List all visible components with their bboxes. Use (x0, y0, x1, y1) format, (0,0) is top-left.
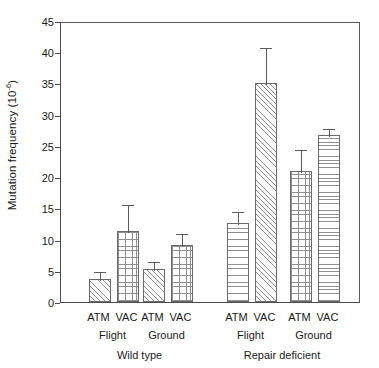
error-bar-cap (94, 272, 106, 273)
error-bar-cap (176, 234, 188, 235)
y-axis-tick-mark (55, 116, 60, 117)
bar-vac-group4 (318, 135, 340, 302)
x-axis-supergroup-label: Wild type (117, 349, 162, 361)
y-axis-title-exponent: -6 (4, 84, 13, 91)
y-axis-tick-mark (55, 147, 60, 148)
y-axis-tick-label: 45 (28, 16, 54, 28)
error-bar-stem (301, 150, 302, 173)
y-axis-tick-mark (55, 53, 60, 54)
plot-area (60, 22, 360, 303)
error-bar-cap (122, 205, 134, 206)
bar-vac-group1 (117, 231, 139, 302)
error-bar-stem (154, 262, 155, 271)
error-bar-cap (295, 150, 307, 151)
y-axis-tick-labels: 051015202530354045 (24, 22, 54, 303)
y-axis-tick-mark (55, 22, 60, 23)
y-axis-tick-mark (55, 178, 60, 179)
error-bar-cap (323, 129, 335, 130)
x-axis-bar-label: ATM (288, 311, 310, 323)
y-axis-tick-label: 15 (28, 203, 54, 215)
error-bar-cap (260, 48, 272, 49)
x-axis-group-label: Ground (148, 329, 185, 341)
y-axis-tick-mark (55, 272, 60, 273)
x-axis-bar-label: VAC (254, 311, 276, 323)
x-axis-bar-label: ATM (141, 311, 163, 323)
y-axis-tick-mark (55, 303, 60, 304)
error-bar-stem (100, 272, 101, 281)
y-axis-tick-label: 20 (28, 172, 54, 184)
y-axis-tick-mark (55, 209, 60, 210)
error-bar-cap (232, 212, 244, 213)
bar-vac-group2 (171, 245, 193, 302)
y-axis-tick-label: 0 (28, 297, 54, 309)
error-bar-stem (182, 234, 183, 246)
x-axis-bar-label: ATM (87, 311, 109, 323)
y-axis-tick-label: 10 (28, 235, 54, 247)
error-bar-cap (148, 262, 160, 263)
bar-atm-group4 (290, 171, 312, 302)
y-axis-tick-label: 25 (28, 141, 54, 153)
y-axis-tick-label: 35 (28, 78, 54, 90)
x-axis-supergroup-label: Repair deficient (244, 349, 320, 361)
bar-atm-group2 (143, 269, 165, 302)
y-axis-tick-label: 40 (28, 47, 54, 59)
y-axis-title-end: ) (6, 80, 18, 84)
x-axis-group-label: Flight (99, 329, 126, 341)
error-bar-stem (238, 212, 239, 225)
x-axis-bar-label: VAC (317, 311, 339, 323)
y-axis-tick-label: 30 (28, 110, 54, 122)
y-axis-title-text: Mutation frequency (10 (6, 91, 18, 211)
x-axis-group-label: Ground (295, 329, 332, 341)
x-axis-bar-label: VAC (170, 311, 192, 323)
figure-canvas: Mutation frequency (10-6) 05101520253035… (0, 0, 379, 368)
x-axis-bar-label: ATM (225, 311, 247, 323)
error-bar-stem (128, 205, 129, 233)
bar-atm-group1 (89, 279, 111, 302)
bar-vac-group3 (255, 83, 277, 302)
error-bar-stem (329, 129, 330, 136)
bar-atm-group3 (227, 223, 249, 302)
x-axis-bar-label: VAC (116, 311, 138, 323)
y-axis-tick-mark (55, 241, 60, 242)
y-axis-title: Mutation frequency (10-6) (6, 0, 24, 290)
error-bar-stem (266, 48, 267, 85)
y-axis-tick-mark (55, 84, 60, 85)
y-axis-tick-label: 5 (28, 266, 54, 278)
x-axis-group-label: Flight (237, 329, 264, 341)
